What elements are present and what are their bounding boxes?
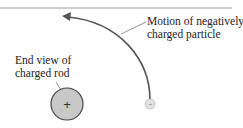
rod-label-line2: charged rod xyxy=(15,67,70,80)
rod-label-line1: End view of xyxy=(15,54,71,66)
particle-path xyxy=(68,17,150,100)
minus-icon: − xyxy=(148,101,152,108)
charged-particle: − xyxy=(145,99,155,109)
diagram-canvas: Motion of negatively charged particle En… xyxy=(0,0,243,128)
motion-label-line2: charged particle xyxy=(147,28,221,41)
plus-icon: + xyxy=(63,97,71,112)
arrowhead-icon xyxy=(62,12,71,21)
rod-leader-line xyxy=(56,82,61,90)
motion-label-line1: Motion of negatively xyxy=(147,15,243,28)
charged-rod: + xyxy=(51,88,83,120)
motion-leader-line xyxy=(121,22,146,34)
